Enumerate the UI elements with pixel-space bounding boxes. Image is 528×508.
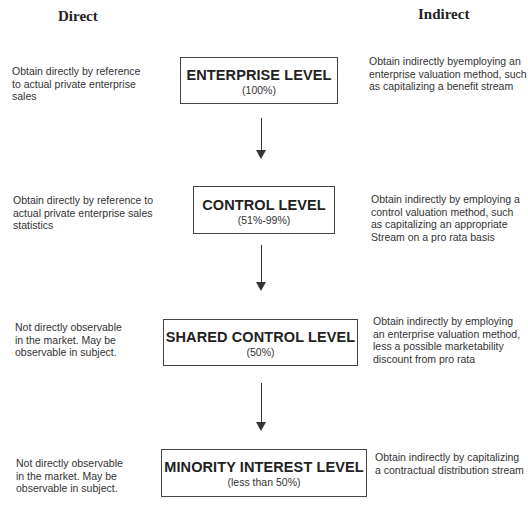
- shared-control-direct-description: Not directly observable in the market. M…: [15, 321, 122, 359]
- minority-interest-level-title: MINORITY INTEREST LEVEL: [162, 459, 366, 475]
- control-level-percentage: (51%-99%): [194, 214, 334, 226]
- control-indirect-description: Obtain indirectly by employing a control…: [371, 193, 520, 243]
- enterprise-direct-description: Obtain directly by reference to actual p…: [12, 65, 140, 103]
- enterprise-level-box: ENTERPRISE LEVEL (100%): [180, 57, 338, 104]
- enterprise-level-title: ENTERPRISE LEVEL: [181, 67, 337, 83]
- shared-control-level-box: SHARED CONTROL LEVEL (50%): [163, 319, 358, 366]
- shared-control-indirect-description: Obtain indirectly by employing an enterp…: [373, 315, 520, 365]
- direct-column-header: Direct: [58, 8, 98, 25]
- arrow-down-icon: [256, 383, 266, 431]
- minority-interest-level-percentage: (less than 50%): [162, 476, 366, 488]
- minority-direct-description: Not directly observable in the market. M…: [16, 457, 123, 495]
- arrow-down-icon: [256, 245, 266, 291]
- control-level-title: CONTROL LEVEL: [194, 197, 334, 213]
- control-level-box: CONTROL LEVEL (51%-99%): [193, 186, 335, 234]
- enterprise-indirect-description: Obtain indirectly byemploying an enterpr…: [369, 55, 527, 93]
- control-direct-description: Obtain directly by reference to actual p…: [13, 194, 153, 232]
- minority-indirect-description: Obtain indirectly by capitalizing a cont…: [375, 451, 524, 476]
- arrow-down-icon: [256, 118, 266, 159]
- enterprise-level-percentage: (100%): [181, 84, 337, 96]
- minority-interest-level-box: MINORITY INTEREST LEVEL (less than 50%): [161, 449, 367, 497]
- shared-control-level-title: SHARED CONTROL LEVEL: [164, 329, 357, 345]
- shared-control-level-percentage: (50%): [164, 346, 357, 358]
- indirect-column-header: Indirect: [418, 6, 469, 23]
